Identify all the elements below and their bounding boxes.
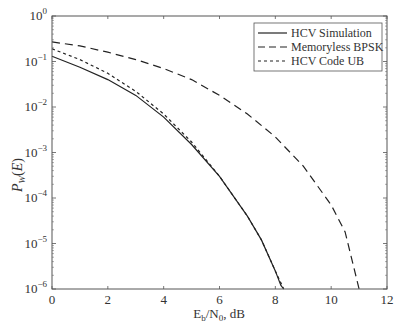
y-axis-label: PW(E) (10, 158, 27, 193)
x-tick-label: 2 (105, 292, 112, 307)
legend-label-hcv-simulation: HCV Simulation (291, 26, 372, 40)
legend-label-memoryless-bpsk: Memoryless BPSK (291, 40, 384, 54)
x-tick-label: 4 (160, 292, 167, 307)
x-tick-label: 6 (216, 292, 223, 307)
curve-memoryless-bpsk (52, 42, 359, 289)
y-tick-label: 10−3 (24, 143, 47, 160)
x-tick-label: 10 (325, 292, 338, 307)
y-tick-label: 10−2 (24, 97, 47, 114)
y-tick-label: 100 (30, 6, 48, 23)
legend-label-hcv-code-ub: HCV Code UB (291, 54, 364, 68)
y-tick-labels: 10010−110−210−310−410−510−6 (24, 6, 47, 296)
y-tick-label: 10−1 (24, 52, 47, 69)
x-tick-label: 0 (49, 292, 56, 307)
y-tick-label: 10−6 (24, 279, 47, 296)
x-tick-labels: 024681012 (49, 292, 394, 307)
x-tick-label: 12 (381, 292, 394, 307)
y-tick-label: 10−4 (24, 188, 47, 205)
data-curves (52, 42, 359, 289)
legend: HCV Simulation Memoryless BPSK HCV Code … (254, 23, 384, 71)
x-axis-label: Eb/N0, dB (193, 306, 245, 323)
y-tick-label: 10−5 (24, 234, 47, 251)
x-tick-label: 8 (272, 292, 279, 307)
ber-chart: 024681012 10010−110−210−310−410−510−6 Eb… (0, 0, 405, 332)
curve-hcv-simulation (52, 56, 284, 289)
curve-hcv-code-ub (52, 49, 284, 289)
